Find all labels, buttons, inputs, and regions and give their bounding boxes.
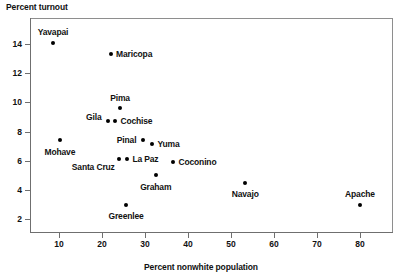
scatter-plot-figure: Percent turnout 246810121410203040506070… [0, 0, 402, 278]
y-axis-tick-label: 4 [0, 186, 22, 195]
y-axis-tick-label: 10 [0, 98, 22, 107]
x-axis-line [30, 232, 393, 233]
plot-frame [30, 18, 393, 233]
y-axis-tick-label: 14 [0, 40, 22, 49]
y-axis-line [30, 18, 31, 233]
x-axis-tick [145, 233, 146, 238]
x-axis-tick-label: 20 [82, 240, 122, 249]
y-axis-tick-label: 12 [0, 69, 22, 78]
x-axis-tick [317, 233, 318, 238]
x-axis-tick [59, 233, 60, 238]
x-axis-tick-label: 30 [125, 240, 165, 249]
y-axis-tick-label: 8 [0, 128, 22, 137]
x-axis-tick [102, 233, 103, 238]
y-axis-tick-label: 2 [0, 215, 22, 224]
y-axis-tick-label: 6 [0, 157, 22, 166]
x-axis-tick [360, 233, 361, 238]
x-axis-tick-label: 40 [168, 240, 208, 249]
x-axis-title: Percent nonwhite population [0, 262, 402, 272]
x-axis-tick-label: 60 [254, 240, 294, 249]
x-axis-tick [274, 233, 275, 238]
x-axis-tick-label: 10 [39, 240, 79, 249]
x-axis-tick [188, 233, 189, 238]
x-axis-tick-label: 50 [211, 240, 251, 249]
x-axis-tick [231, 233, 232, 238]
y-axis-title: Percent turnout [6, 2, 68, 12]
x-axis-tick-label: 80 [340, 240, 380, 249]
x-axis-tick-label: 70 [297, 240, 337, 249]
